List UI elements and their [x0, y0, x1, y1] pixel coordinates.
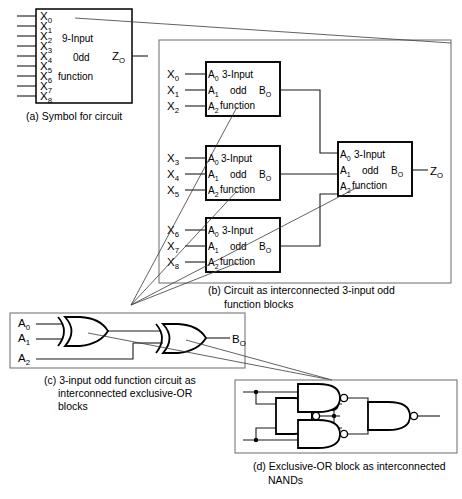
svg-text:X8: X8: [167, 256, 179, 271]
caption-c-line-2: interconnected exclusive-OR: [58, 387, 193, 399]
block-1-input-wires: [185, 74, 206, 106]
svg-text:X7: X7: [167, 240, 179, 255]
block-2-line-1: 3-Input: [221, 153, 252, 164]
caption-d-line-2: NANDs: [268, 474, 303, 486]
block-2-input-labels: X3 X4 X5: [167, 152, 180, 199]
caption-c-line-3: blocks: [58, 400, 88, 412]
panel-c-xor-circuit: A0 A1 A2 BO: [18, 317, 246, 367]
panel-b-block-1: X0 X1 X2 A0 A1 A2 3-Input odd function B…: [167, 62, 338, 153]
caption-b-line-1: (b) Circuit as interconnected 3-input od…: [208, 284, 395, 296]
block-1-input-labels: X0 X1 X2: [167, 68, 180, 115]
merge-line-1: 3-Input: [354, 149, 385, 160]
caption-c-line-1: (c) 3-input odd function circuit as: [44, 374, 196, 386]
panel-c-input-a0: A0: [18, 317, 31, 332]
symbol-line-2: 0dd: [73, 52, 90, 63]
block-2-line-3: function: [220, 184, 255, 195]
block-3-input-wires: [185, 230, 206, 262]
leaders-b-to-c: [131, 107, 358, 305]
block-3-line-1: 3-Input: [222, 225, 253, 236]
block-2-line-2: odd: [230, 169, 247, 180]
nand-gate-3: [298, 420, 348, 448]
symbol-line-1: 9-Input: [62, 33, 93, 44]
merge-pin-labels: A0 A1 A2: [340, 149, 351, 194]
circuit-figure: X0 X1 X2 X3 X4 X5 X6 X7 X8 9-Input 0dd f…: [0, 0, 462, 499]
panel-c-input-a2: A2: [18, 352, 30, 367]
symbol-input-labels: X0 X1 X2 X3 X4 X5 X6 X7 X8: [40, 10, 53, 105]
svg-text:X0: X0: [167, 68, 180, 83]
block-1-pin-labels: A0 A1 A2: [208, 69, 219, 114]
svg-text:X3: X3: [167, 152, 179, 167]
leaders-c-to-d: [88, 333, 332, 380]
xor-gate-2: [156, 324, 206, 353]
svg-text:X1: X1: [167, 84, 179, 99]
panel-b-merge-block: A0 A1 A2 3-Input odd function BO ZO: [338, 142, 443, 196]
panel-b-block-3: X6 X7 X8 A0 A1 A2 3-Input odd function B…: [167, 194, 338, 272]
nand-gate-4: [368, 402, 418, 430]
block-1-output-wire: [280, 90, 338, 153]
block-3-pin-labels: A0 A1 A2: [208, 225, 219, 270]
block-1-line-2: odd: [230, 85, 247, 96]
symbol-line-3: function: [58, 71, 93, 82]
caption-b-line-2: function blocks: [224, 298, 293, 310]
xor-gate-1: [58, 317, 108, 346]
panel-c-input-a1: A1: [18, 332, 30, 347]
svg-text:X5: X5: [167, 184, 180, 199]
block-1-line-3: function: [220, 100, 255, 111]
block-2-pin-labels: A0 A1 A2: [208, 153, 219, 198]
svg-text:X2: X2: [167, 100, 179, 115]
panel-d-nand-circuit: [243, 384, 440, 448]
caption-d-line-1: (d) Exclusive-OR block as interconnected: [253, 460, 446, 472]
panel-b-block-2: X3 X4 X5 A0 A1 A2 3-Input odd function B…: [167, 146, 338, 200]
panel-a-symbol: X0 X1 X2 X3 X4 X5 X6 X7 X8 9-Input 0dd f…: [17, 9, 148, 122]
nand-gate-2: [298, 384, 348, 412]
symbol-input-stubs: [17, 16, 36, 96]
panel-c-output-label: BO: [232, 333, 246, 348]
block-3-line-3: function: [220, 256, 255, 267]
caption-a: (a) Symbol for circuit: [26, 110, 122, 122]
svg-text:X4: X4: [167, 168, 180, 183]
merge-line-2: odd: [362, 165, 379, 176]
merge-output-label: ZO: [430, 165, 443, 180]
merge-line-3: function: [352, 180, 387, 191]
block-1-line-1: 3-Input: [222, 69, 253, 80]
